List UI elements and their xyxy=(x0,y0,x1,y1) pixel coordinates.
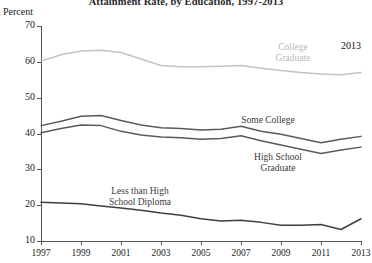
y-tick-label: 60 xyxy=(13,55,35,66)
x-tick xyxy=(361,241,362,245)
y-tick-label: 50 xyxy=(13,91,35,102)
x-tick xyxy=(241,241,242,245)
chart-container: Attainment Rate, by Education, 1997-2013… xyxy=(0,0,372,263)
y-axis-label: Percent xyxy=(3,6,33,17)
x-tick-label: 2007 xyxy=(232,248,251,258)
x-tick xyxy=(201,241,202,245)
x-tick-label: 2013 xyxy=(352,248,371,258)
chart-title: Attainment Rate, by Education, 1997-2013 xyxy=(0,0,372,7)
x-tick xyxy=(121,241,122,245)
x-tick-label: 2009 xyxy=(272,248,291,258)
series-label-less-than-high-school: Less than High School Diploma xyxy=(95,186,185,207)
x-tick-label: 2003 xyxy=(152,248,171,258)
series-label-college-graduate-line1: College xyxy=(264,42,322,53)
x-tick xyxy=(81,241,82,245)
series-label-college-graduate: College Graduate xyxy=(264,42,322,63)
y-tick-label: 20 xyxy=(13,198,35,209)
x-tick xyxy=(41,241,42,245)
x-tick-label: 1997 xyxy=(32,248,51,258)
series-label-high-school-graduate: High School Graduate xyxy=(245,152,311,173)
annotation-2013: 2013 xyxy=(341,40,361,51)
y-tick-label: 10 xyxy=(13,234,35,245)
x-tick-label: 2005 xyxy=(192,248,211,258)
series-label-some-college: Some College xyxy=(233,115,303,126)
y-tick-label: 70 xyxy=(13,19,35,30)
x-tick-label: 2011 xyxy=(312,248,331,258)
series-label-college-graduate-line2: Graduate xyxy=(264,53,322,64)
y-tick-label: 40 xyxy=(13,127,35,138)
x-tick xyxy=(161,241,162,245)
x-tick-label: 2001 xyxy=(112,248,131,258)
series-label-high-school-graduate-line2: Graduate xyxy=(245,163,311,174)
series-line-less-than-high-school-diploma xyxy=(41,202,361,229)
series-label-less-than-high-school-line1: Less than High xyxy=(95,186,185,197)
x-tick-label: 1999 xyxy=(72,248,91,258)
series-label-high-school-graduate-line1: High School xyxy=(245,152,311,163)
y-tick-label: 30 xyxy=(13,162,35,173)
x-tick xyxy=(281,241,282,245)
series-label-less-than-high-school-line2: School Diploma xyxy=(95,197,185,208)
x-tick xyxy=(321,241,322,245)
